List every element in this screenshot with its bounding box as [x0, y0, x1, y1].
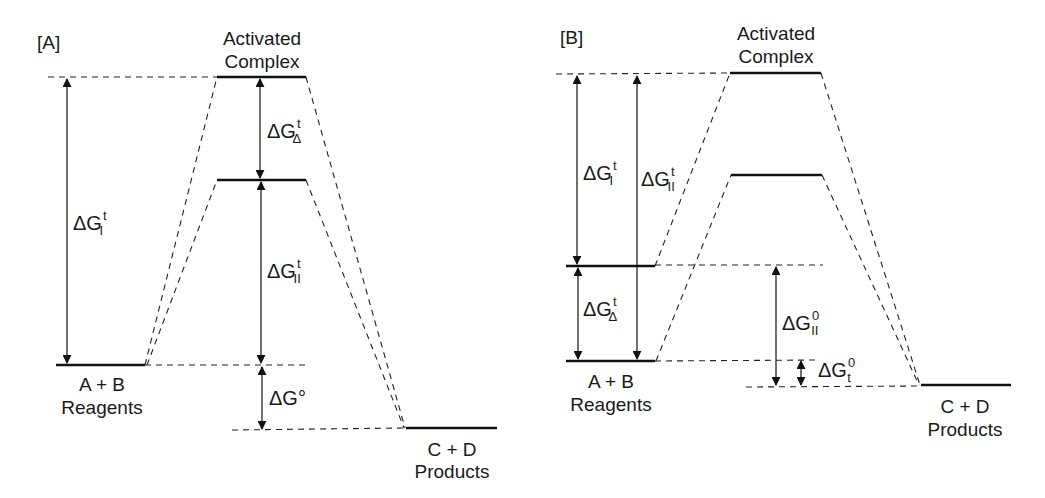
panel-b-dg-ii-label: ΔGtII — [641, 164, 675, 194]
panel-b: [B] Activated Complex ΔGtI ΔGtII ΔGtΔ ΔG… — [556, 23, 1011, 440]
panel-b-products-species: C + D — [940, 396, 989, 417]
panel-a-products-species: C + D — [427, 439, 476, 460]
panel-a-reagents-label: Reagents — [61, 397, 142, 418]
panel-a-dg-standard-label: ΔG° — [269, 387, 306, 409]
panel-a-ref-products — [232, 428, 406, 430]
panel-b-path-up-2 — [656, 175, 731, 361]
panel-b-dg-i-label: ΔGtI — [583, 158, 617, 188]
panel-a-path-up-1 — [145, 77, 217, 365]
panel-b-activated-label-2: Complex — [739, 46, 814, 67]
panel-b-reagents-label: Reagents — [570, 394, 651, 415]
panel-b-ref-top — [556, 73, 730, 74]
panel-a-products-label: Products — [415, 461, 490, 482]
panel-a-dg-i-label: ΔGtI — [73, 208, 107, 238]
panel-a-dg-ii-label: ΔGtII — [267, 256, 301, 286]
panel-a-activated-label-1: Activated — [223, 28, 301, 49]
panel-a-path-up-2 — [147, 180, 217, 365]
panel-b-activated-label-1: Activated — [737, 23, 815, 44]
panel-a-label: [A] — [37, 32, 60, 53]
panel-b-label: [B] — [560, 27, 583, 48]
panel-b-reagents-species: A + B — [588, 371, 634, 392]
panel-b-dg-delta-label: ΔGtΔ — [583, 294, 618, 324]
panel-b-ref-products — [746, 386, 921, 387]
panel-a-reagents-species: A + B — [79, 374, 125, 395]
panel-b-path-down-1 — [821, 73, 920, 385]
panel-a-path-down-2 — [306, 180, 404, 428]
panel-b-ref-reagents — [655, 360, 820, 361]
panel-b-path-down-2 — [822, 175, 919, 385]
panel-a-dg-delta-label: ΔGtΔ — [267, 116, 302, 146]
panel-b-products-label: Products — [928, 419, 1003, 440]
energy-diagram: [A] Activated Complex ΔGtI ΔGtΔ ΔGtII ΔG… — [0, 0, 1045, 498]
panel-a-activated-label-2: Complex — [225, 51, 300, 72]
panel-b-dg0-ii-label: ΔG0II — [782, 308, 819, 338]
panel-b-dg0-t-label: ΔG0t — [818, 355, 855, 385]
panel-a: [A] Activated Complex ΔGtI ΔGtΔ ΔGtII ΔG… — [37, 28, 497, 482]
panel-a-path-down-1 — [306, 77, 405, 428]
